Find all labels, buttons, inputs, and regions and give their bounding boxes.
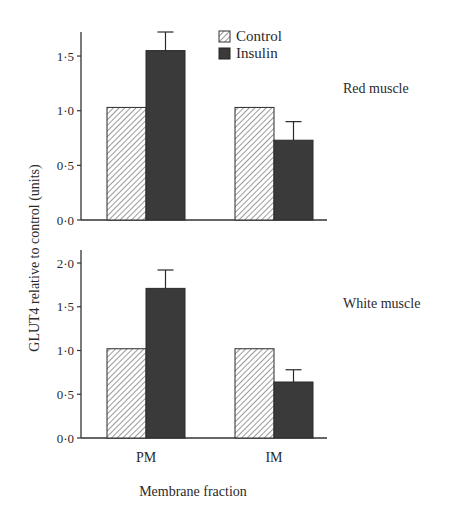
glut4-bar-chart: GLUT4 relative to control (units) Contro… [0,0,451,515]
y-tick-label: 0·0 [57,431,74,446]
legend: Control Insulin [219,28,282,61]
x-axis-title: Membrane fraction [139,484,247,499]
bar-control-im [235,107,274,220]
bar-insulin-pm [146,51,185,220]
panel-white-muscle: 0·00·51·01·52·0 [57,250,327,446]
category-label-im: IM [265,450,283,465]
category-label-pm: PM [136,450,157,465]
bar-control-pm [107,349,146,438]
y-tick-label: 1·0 [57,103,74,118]
y-tick-label: 1·0 [57,343,74,358]
bar-insulin-im [274,382,313,438]
bar-control-pm [107,107,146,220]
legend-label-insulin: Insulin [236,45,278,61]
y-axis-title: GLUT4 relative to control (units) [27,164,43,352]
bar-insulin-pm [146,288,185,438]
legend-swatch-control [219,31,230,42]
y-tick-label: 0·0 [57,213,74,228]
y-tick-label: 0·5 [57,387,74,402]
legend-label-control: Control [236,28,282,44]
bar-control-im [235,349,274,438]
legend-swatch-insulin [219,48,230,59]
y-tick-label: 0·5 [57,158,74,173]
panel-label-white-muscle: White muscle [343,296,420,311]
bar-insulin-im [274,140,313,220]
panel-label-red-muscle: Red muscle [343,81,409,96]
y-tick-label: 2·0 [57,256,74,271]
y-tick-label: 1·5 [57,49,74,64]
panel-red-muscle: 0·00·51·01·5 [57,32,327,228]
y-tick-label: 1·5 [57,299,74,314]
